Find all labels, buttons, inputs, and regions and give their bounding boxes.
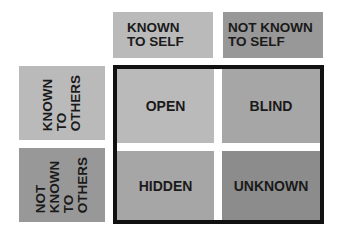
column-header-not-known-to-self: NOT KNOWN TO SELF: [223, 12, 323, 58]
row-header-known-to-others: KNOWN TO OTHERS: [19, 66, 105, 140]
row-header-not-known-to-others: NOT KNOWN TO OTHERS: [19, 148, 105, 222]
johari-window-frame: OPEN BLIND HIDDEN UNKNOWN: [113, 65, 324, 224]
row-header-not-known-to-others-text: NOT KNOWN TO OTHERS: [34, 157, 90, 213]
quadrant-blind: BLIND: [222, 69, 320, 143]
row-header-known-to-others-text: KNOWN TO OTHERS: [41, 75, 83, 131]
quadrant-hidden: HIDDEN: [117, 151, 214, 220]
quadrant-unknown: UNKNOWN: [222, 151, 320, 220]
column-header-known-to-self: KNOWN TO SELF: [113, 12, 213, 58]
quadrant-open: OPEN: [117, 69, 214, 143]
